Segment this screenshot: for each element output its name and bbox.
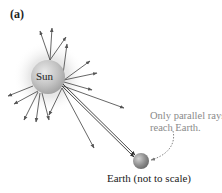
note-line-2: reach Earth.: [150, 122, 222, 134]
panel-label: (a): [10, 7, 24, 22]
diagram-canvas: [0, 0, 222, 193]
earth-label: Earth (not to scale): [107, 172, 191, 184]
sun-label: Sun: [36, 70, 53, 82]
parallel-rays-note: Only parallel rays reach Earth.: [150, 110, 222, 134]
note-line-1: Only parallel rays: [150, 110, 222, 122]
earth: [133, 153, 149, 169]
dotted-pointer-arrow: [151, 131, 174, 160]
